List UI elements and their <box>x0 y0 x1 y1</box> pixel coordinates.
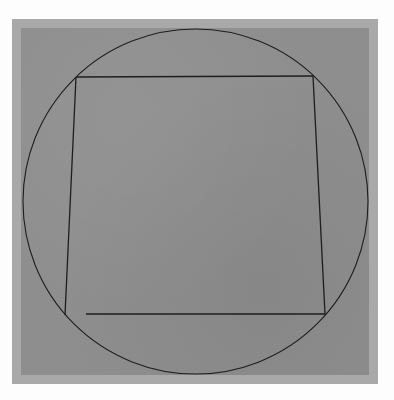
quad-top-edge <box>76 76 313 77</box>
quad-left-edge <box>65 77 76 315</box>
line-drawing <box>0 0 394 400</box>
circle-outline <box>23 29 368 374</box>
artwork-image <box>0 0 394 400</box>
quad-right-edge <box>313 76 325 314</box>
